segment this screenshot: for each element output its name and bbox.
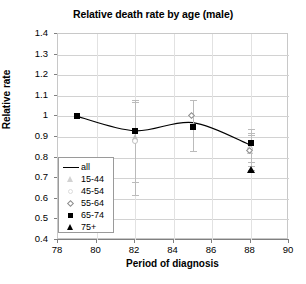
x-axis-tick-mark xyxy=(211,240,212,243)
x-axis-tick-label: 86 xyxy=(199,245,223,255)
legend-item[interactable]: all xyxy=(59,161,115,173)
error-bar-cap xyxy=(132,182,139,183)
legend-item[interactable]: 45-54 xyxy=(59,185,115,197)
error-bar-cap xyxy=(190,151,197,152)
data-point-45-54 xyxy=(132,138,138,144)
x-axis-tick-label: 80 xyxy=(84,245,108,255)
y-axis-tick-label: 1.4 xyxy=(20,28,48,38)
x-axis-tick-label: 88 xyxy=(238,245,262,255)
y-axis-tick-label: 0.4 xyxy=(20,234,48,244)
legend-item[interactable]: 75+ xyxy=(59,221,115,233)
x-axis-tick-mark xyxy=(288,240,289,243)
y-axis-tick-label: 0.7 xyxy=(20,172,48,182)
x-axis-label: Period of diagnosis xyxy=(57,258,288,269)
error-bar-cap xyxy=(132,100,139,101)
error-bar-cap xyxy=(248,129,255,130)
legend-label: 55-64 xyxy=(81,198,104,209)
y-axis-tick-label: 0.6 xyxy=(20,193,48,203)
x-axis-tick-label: 78 xyxy=(45,245,69,255)
y-axis-tick-label: 1.3 xyxy=(20,49,48,59)
legend-label: all xyxy=(81,162,90,173)
legend-marker-icon xyxy=(62,185,80,197)
x-axis-tick-mark xyxy=(57,240,58,243)
x-axis-tick-label: 84 xyxy=(161,245,185,255)
x-axis-tick-mark xyxy=(96,240,97,243)
legend-marker-icon xyxy=(62,197,80,209)
y-axis-tick-label: 1.1 xyxy=(20,90,48,100)
legend-item[interactable]: 55-64 xyxy=(59,197,115,209)
legend-item[interactable]: 15-44 xyxy=(59,173,115,185)
data-point-65-74 xyxy=(74,113,80,119)
x-axis-tick-label: 82 xyxy=(122,245,146,255)
chart-title: Relative death rate by age (male) xyxy=(0,8,306,20)
legend-marker-icon xyxy=(62,161,80,173)
y-axis-tick-label: 0.8 xyxy=(20,152,48,162)
error-bar-cap xyxy=(132,195,139,196)
data-point-65-74 xyxy=(248,140,254,146)
legend-label: 15-44 xyxy=(81,174,104,185)
x-axis-tick-label: 90 xyxy=(276,245,300,255)
legend-label: 45-54 xyxy=(81,186,104,197)
y-axis-tick-label: 1 xyxy=(20,110,48,120)
x-axis-tick-mark xyxy=(134,240,135,243)
y-axis-tick-label: 0.9 xyxy=(20,131,48,141)
chart-container: Relative death rate by age (male) Relati… xyxy=(0,0,306,284)
data-point-65-74 xyxy=(132,128,138,134)
legend-label: 75+ xyxy=(81,222,96,233)
data-point-75plus xyxy=(247,166,255,173)
y-axis-label: Relative rate xyxy=(1,50,12,150)
x-axis-tick-mark xyxy=(173,240,174,243)
legend-marker-icon xyxy=(62,173,80,185)
error-bar-cap xyxy=(190,100,197,101)
legend-marker-icon xyxy=(62,221,80,233)
legend-marker-icon xyxy=(62,209,80,221)
legend-label: 65-74 xyxy=(81,210,104,221)
y-axis-tick-label: 1.2 xyxy=(20,69,48,79)
data-point-65-74 xyxy=(190,124,196,130)
legend-item[interactable]: 65-74 xyxy=(59,209,115,221)
x-axis-tick-mark xyxy=(250,240,251,243)
y-axis-tick-label: 0.5 xyxy=(20,213,48,223)
chart-legend: all15-4445-5455-6465-7475+ xyxy=(58,157,114,233)
